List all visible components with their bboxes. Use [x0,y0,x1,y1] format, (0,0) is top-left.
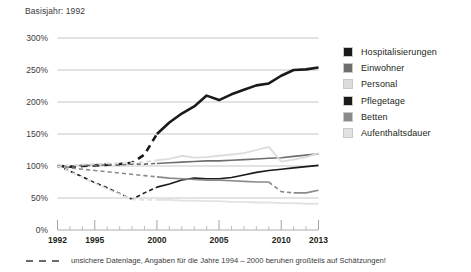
legend-item: Einwohner [343,60,437,76]
legend-label: Betten [361,112,388,122]
series-line-aufenthaltsdauer [58,166,157,200]
series-line-betten [269,182,294,193]
x-axis [58,220,319,230]
legend-label: Personal [361,79,397,89]
series-line-betten [157,177,269,182]
y-tick-label: 300% [8,33,48,43]
legend-item: Betten [343,109,437,125]
x-tick-label: 1995 [75,235,115,245]
footnote-text: unsichere Datenlage, Angaben für die Jah… [71,256,386,265]
legend-label: Aufenthaltsdauer [361,128,431,138]
series-line-aufenthaltsdauer [157,200,319,204]
y-tick-label: 200% [8,97,48,107]
legend-swatch-icon [343,79,353,89]
legend-item: Personal [343,76,437,92]
dashed-line-sample-icon [25,258,65,264]
series-line-pflegetage [58,166,157,199]
x-tick-label: 2010 [261,235,301,245]
footnote: unsichere Datenlage, Angaben für die Jah… [25,256,386,265]
y-tick-label: 150% [8,129,48,139]
legend-label: Pflegetage [361,96,405,106]
legend-label: Hospitalisierungen [361,47,437,57]
legend-swatch-icon [343,47,353,57]
x-tick-label: 2005 [199,235,239,245]
series-layer [58,67,319,203]
series-line-hospitalisierungen [157,67,319,134]
legend-swatch-icon [343,96,353,106]
y-tick-label: 50% [8,193,48,203]
legend-item: Pflegetage [343,93,437,109]
legend-swatch-icon [343,112,353,122]
x-tick-label: 2013 [299,235,339,245]
legend-swatch-icon [343,63,353,73]
y-tick-label: 250% [8,65,48,75]
legend-item: Hospitalisierungen [343,44,437,60]
legend-swatch-icon [343,128,353,138]
y-tick-label: 0% [8,225,48,235]
x-tick-label: 2000 [137,235,177,245]
chart-legend: HospitalisierungenEinwohnerPersonalPfleg… [343,44,437,141]
series-line-betten [294,190,319,193]
x-tick-label: 1992 [38,235,78,245]
legend-item: Aufenthaltsdauer [343,125,437,141]
legend-label: Einwohner [361,63,404,73]
y-tick-label: 100% [8,161,48,171]
series-line-pflegetage [157,165,319,187]
